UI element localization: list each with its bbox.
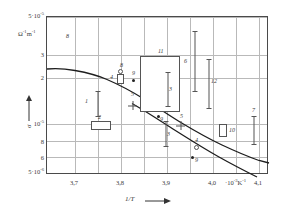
marker-label-11: 11 <box>158 48 164 54</box>
rect-series-4-left <box>117 74 124 84</box>
inner-label-8: 8 <box>66 33 69 39</box>
marker-label-5-a: 5 <box>131 91 134 97</box>
cross-series-5-b <box>176 121 185 130</box>
marker-label-3-a: 3 <box>169 86 172 92</box>
marker-label-5-b: 5 <box>180 113 183 119</box>
marker-label-6: 6 <box>184 58 187 64</box>
errorbar-series-12 <box>205 59 212 109</box>
dot-series-9-c <box>191 156 194 159</box>
marker-label-3-b: 3 <box>167 131 170 137</box>
y-tick-6e-6: 6 <box>4 155 44 162</box>
y-tick-5e-6: 5·10-6 <box>4 169 44 176</box>
marker-label-4-left: 4 <box>110 74 113 80</box>
errorbar-series-7 <box>250 116 257 145</box>
plot-area: 8 1 2 8 4 9 5 11 3 9 <box>46 16 268 174</box>
x-axis-unit: ·10-3K-1 <box>225 180 246 187</box>
marker-label-12: 12 <box>211 78 217 84</box>
rect-series-10 <box>219 124 227 137</box>
x-axis-arrow <box>145 197 171 205</box>
y-axis-title: σ <box>26 125 33 128</box>
y-tick-8e-6: 8 <box>4 139 44 146</box>
x-tick-3.9: 3,9 <box>152 180 180 187</box>
errorbar-series-6 <box>191 31 198 92</box>
rect-series-2 <box>91 121 111 130</box>
marker-label-8: 8 <box>120 62 123 68</box>
y-tick-1e-5: 10-5 <box>4 121 44 128</box>
y-axis-unit: Ω-1m-1 <box>18 31 36 38</box>
marker-label-9-a: 9 <box>132 70 135 76</box>
x-tick-4.0: 4,0 <box>198 180 226 187</box>
marker-label-2: 2 <box>98 114 101 120</box>
y-axis-arrow <box>24 95 34 121</box>
marker-label-7: 7 <box>252 107 255 113</box>
x-tick-3.7: 3,7 <box>60 180 88 187</box>
cross-series-5-a <box>128 101 137 110</box>
chart-figure: Ω-1m-1 5·10-5 3 2 10-5 8 6 5·10-6 σ <box>0 0 281 224</box>
marker-label-1: 1 <box>85 98 88 104</box>
open-marker-series-4-right <box>194 145 199 150</box>
x-axis-title: 1/T <box>125 196 134 203</box>
rect-series-11 <box>140 56 180 112</box>
marker-label-10: 10 <box>229 127 235 133</box>
dot-series-9-a <box>132 79 135 82</box>
y-tick-2e-5: 2 <box>4 75 44 82</box>
marker-label-9-c: 9 <box>195 157 198 163</box>
marker-label-4-right: 4 <box>195 137 198 143</box>
x-tick-4.1: 4,1 <box>244 180 272 187</box>
y-tick-3e-5: 3 <box>4 52 44 59</box>
y-tick-5e-5: 5·10-5 <box>4 13 44 20</box>
x-tick-3.8: 3,8 <box>106 180 134 187</box>
